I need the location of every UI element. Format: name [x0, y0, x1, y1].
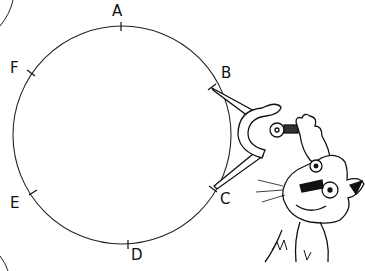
point-label-f: F	[10, 61, 19, 76]
tick-marks	[27, 22, 217, 249]
point-label-e: E	[10, 196, 19, 211]
point-label-b: B	[221, 66, 231, 81]
point-label-a: A	[112, 4, 122, 19]
main-circle	[13, 26, 231, 244]
point-label-c: C	[220, 192, 230, 207]
compass	[212, 88, 298, 189]
illustration: A B C D E F	[0, 0, 365, 271]
drawing-canvas	[0, 0, 365, 271]
cat-character	[256, 114, 364, 262]
point-label-d: D	[131, 248, 143, 263]
edge-arc-top	[0, 0, 13, 26]
edge-arc-bottom	[0, 256, 8, 271]
